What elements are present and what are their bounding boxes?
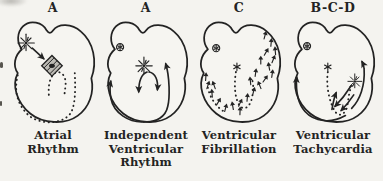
caption-line: Ventricular <box>286 129 380 143</box>
panel-independent-ventricular-rhythm: A Independent Ventricular Rhythm <box>99 0 193 170</box>
panel-letter: B-C-D <box>286 0 380 15</box>
panel-ventricular-tachycardia: B-C-D Ventricular Tachycardia <box>286 0 380 156</box>
caption-line: Atrial <box>6 129 100 143</box>
heart-diagram-independent-ventricular-rhythm <box>100 15 192 127</box>
caption-independent-ventricular-rhythm: Independent Ventricular Rhythm <box>99 129 193 170</box>
caption-line: Tachycardia <box>286 143 380 157</box>
figure-scan: A Atrial Rhythm A <box>0 0 383 181</box>
caption-line: Independent <box>99 129 193 143</box>
heart-diagram-ventricular-fibrillation <box>193 15 285 127</box>
caption-atrial-rhythm: Atrial Rhythm <box>6 129 100 156</box>
caption-line: Ventricular <box>192 129 286 143</box>
panel-letter: A <box>99 0 193 15</box>
scan-speck <box>0 101 2 106</box>
caption-ventricular-fibrillation: Ventricular Fibrillation <box>192 129 286 156</box>
caption-ventricular-tachycardia: Ventricular Tachycardia <box>286 129 380 156</box>
caption-line: Fibrillation <box>192 143 286 157</box>
heart-outline <box>295 22 374 122</box>
panel-ventricular-fibrillation: C Ventricular Fibrillation <box>192 0 286 156</box>
caption-line: Rhythm <box>99 156 193 170</box>
heart-diagram-atrial-rhythm <box>7 15 99 127</box>
caption-line: Rhythm <box>6 143 100 157</box>
panel-letter: C <box>192 0 286 15</box>
caption-line: Ventricular <box>99 143 193 157</box>
heart-diagram-ventricular-tachycardia <box>287 15 379 127</box>
panel-letter: A <box>6 0 100 15</box>
panel-atrial-rhythm: A Atrial Rhythm <box>6 0 100 156</box>
scan-speck <box>0 62 3 68</box>
